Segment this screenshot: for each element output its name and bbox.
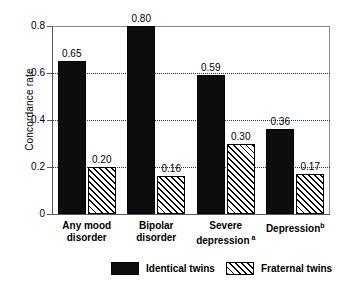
bar-value-label: 0.30 [231,132,250,142]
x-category-label-3: Depressionb [266,220,325,235]
bar-identical-twins-2 [197,75,225,214]
legend-swatch-hatch [226,262,254,275]
bar-fraternal-twins-3 [296,174,324,214]
footnote-marker: a [250,234,256,241]
legend-item-fraternal-twins: Fraternal twins [226,262,332,275]
legend-item-identical-twins: Identical twins [111,262,215,275]
bar-fraternal-twins-1 [157,176,185,214]
bar-value-label: 0.16 [162,164,181,174]
plot-area: 00.20.40.60.8 0.650.200.800.160.590.300.… [52,26,330,214]
x-axis-line [52,214,330,215]
bar-fraternal-twins-0 [88,167,116,214]
bar-identical-twins-0 [58,61,86,214]
bar-value-label: 0.36 [271,117,290,127]
x-category-label-2: Severedepression a [196,220,255,246]
y-tick-label: 0 [39,209,45,219]
y-tick-label: 0.6 [31,68,45,78]
footnote-marker: b [320,222,324,229]
y-tick-mark [47,26,52,27]
gridline-2 [52,73,330,74]
plot-top-border [52,26,330,27]
chart-legend: Identical twinsFraternal twins [0,262,351,284]
x-category-label-0: Any mooddisorder [62,220,111,243]
legend-label: Identical twins [146,264,215,274]
y-tick-mark [47,167,52,168]
bar-value-label: 0.17 [301,162,320,172]
y-tick-mark [47,214,52,215]
legend-label: Fraternal twins [261,264,332,274]
y-tick-mark [47,120,52,121]
bar-identical-twins-1 [127,26,155,214]
concordance-rate-bar-chart: Concordance rate 00.20.40.60.8 0.650.200… [0,0,351,293]
x-category-label-1: Bipolardisorder [136,220,176,243]
bar-value-label: 0.80 [132,14,151,24]
bar-identical-twins-3 [266,129,294,214]
bar-value-label: 0.59 [201,63,220,73]
y-tick-mark [47,73,52,74]
y-tick-label: 0.8 [31,21,45,31]
bar-fraternal-twins-2 [227,144,255,215]
legend-swatch-solid [111,262,139,275]
bar-value-label: 0.20 [92,155,111,165]
y-tick-label: 0.2 [31,162,45,172]
y-tick-label: 0.4 [31,115,45,125]
bar-value-label: 0.65 [62,49,81,59]
